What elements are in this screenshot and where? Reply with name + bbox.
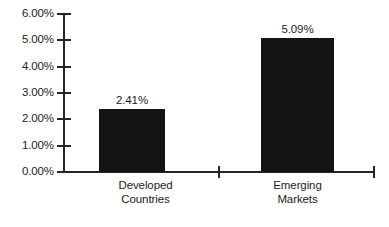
- y-axis-tick-label: 4.00%: [0, 61, 54, 73]
- y-axis-tick-label-text: 1.00%: [4, 140, 54, 152]
- bar-chart: 0.00%1.00%2.00%3.00%4.00%5.00%6.00% 2.41…: [0, 0, 389, 227]
- cropped-caption: [30, 220, 280, 227]
- value-label-developed-countries: 2.41%: [69, 95, 195, 107]
- y-axis-tick-label-text: 4.00%: [4, 61, 54, 73]
- y-axis-tick: [57, 13, 71, 15]
- y-axis-tick: [57, 66, 71, 68]
- x-axis-tick-end: [373, 166, 375, 178]
- y-axis-tick: [57, 145, 71, 147]
- y-axis-tick-label: 0.00%: [0, 166, 54, 178]
- y-axis-tick-label: 1.00%: [0, 140, 54, 152]
- bar-emerging-markets: [261, 38, 334, 172]
- category-label-line-1: Developed: [73, 178, 218, 192]
- y-axis-tick-label-text: 6.00%: [4, 8, 54, 20]
- category-label-developed-countries: Developed Countries: [73, 178, 218, 206]
- y-axis-tick-label-text: 2.00%: [4, 113, 54, 125]
- y-axis-tick: [57, 39, 71, 41]
- y-axis-tick: [57, 118, 71, 120]
- y-axis-tick-label: 6.00%: [0, 8, 54, 20]
- value-label-emerging-markets: 5.09%: [231, 24, 364, 36]
- y-axis-tick-label: 2.00%: [0, 113, 54, 125]
- y-axis-tick-label: 5.00%: [0, 34, 54, 46]
- category-label-line-2: Markets: [225, 192, 370, 206]
- category-label-emerging-markets: Emerging Markets: [225, 178, 370, 206]
- y-axis-tick-label: 3.00%: [0, 87, 54, 99]
- category-label-line-2: Countries: [73, 192, 218, 206]
- x-axis-tick-middle: [218, 166, 220, 178]
- y-axis-tick-label-text: 3.00%: [4, 87, 54, 99]
- y-axis-tick-label-text: 0.00%: [4, 166, 54, 178]
- category-label-line-1: Emerging: [225, 178, 370, 192]
- bar-developed-countries: [99, 109, 165, 172]
- y-axis-tick-label-text: 5.00%: [4, 34, 54, 46]
